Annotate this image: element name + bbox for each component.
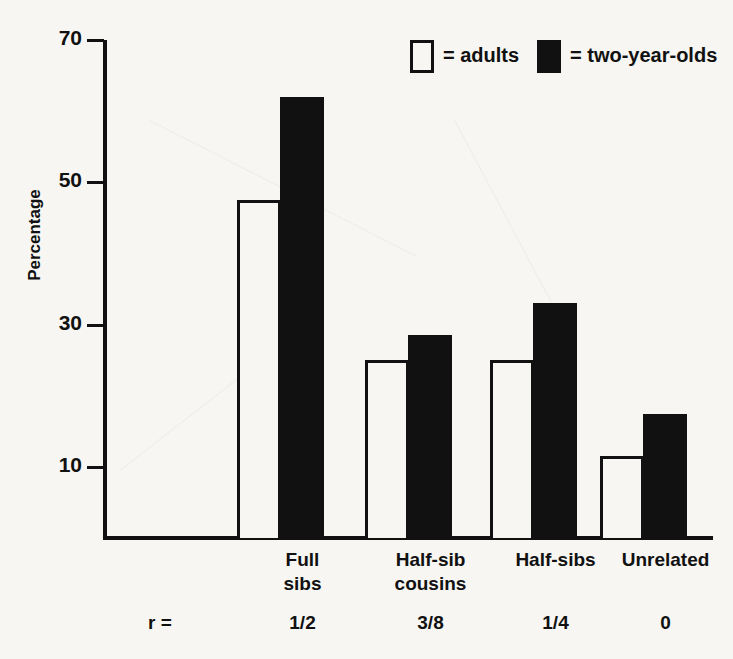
bar-two-year-olds-1	[408, 335, 452, 538]
bar-adults-2	[490, 360, 534, 538]
y-axis-tick-label: 70	[28, 26, 82, 50]
bar-adults-3	[600, 456, 644, 538]
bar-adults-0	[237, 200, 281, 538]
r-axis-label: r =	[120, 612, 200, 634]
r-axis-value: 1/4	[506, 612, 606, 634]
bar-chart-figure: Percentage 10305070 Full sibsHalf-sib co…	[0, 0, 733, 659]
legend-label-adults: = adults	[443, 44, 519, 67]
r-axis-value: 3/8	[381, 612, 481, 634]
y-axis-tick	[87, 466, 104, 469]
bar-two-year-olds-2	[533, 303, 577, 538]
legend-swatch-two-year-olds	[537, 40, 561, 73]
legend-swatch-adults	[410, 40, 434, 73]
bar-adults-1	[365, 360, 409, 538]
y-axis-tick	[87, 181, 104, 184]
y-axis-tick-label: 10	[28, 453, 82, 477]
y-axis-tick-label: 50	[28, 168, 82, 192]
r-axis-value: 1/2	[253, 612, 353, 634]
y-axis-tick-label: 30	[28, 311, 82, 335]
x-axis-category-label: Unrelated	[586, 548, 733, 572]
r-axis-value: 0	[616, 612, 716, 634]
bar-two-year-olds-3	[643, 414, 687, 539]
y-axis-tick	[87, 39, 104, 42]
bar-two-year-olds-0	[280, 97, 324, 538]
y-axis-tick	[87, 324, 104, 327]
paper-crease-decoration	[454, 120, 563, 324]
legend-label-two-year-olds: = two-year-olds	[570, 44, 717, 67]
